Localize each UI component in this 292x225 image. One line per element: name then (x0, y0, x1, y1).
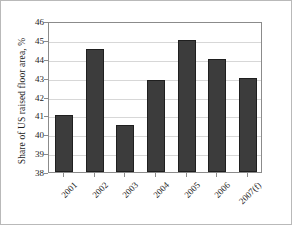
x-axis-tick-mark (155, 173, 156, 177)
bar (239, 78, 257, 172)
plot-area (48, 22, 262, 173)
x-axis-tick-mark (216, 173, 217, 177)
x-axis-tick-mark (63, 173, 64, 177)
bar (208, 59, 226, 172)
y-axis-title: Share of US raised floor area, % (15, 15, 29, 187)
bar (147, 80, 165, 172)
bar (55, 115, 73, 172)
x-axis-tick-mark (94, 173, 95, 177)
bar (116, 125, 134, 172)
x-axis-tick-mark (186, 173, 187, 177)
bar (86, 49, 104, 172)
bar (178, 40, 196, 172)
gridline (49, 61, 261, 62)
bar-chart-figure: Share of US raised floor area, % 3839404… (0, 0, 292, 225)
x-axis-tick-mark (247, 173, 248, 177)
y-axis-tick-mark (44, 173, 48, 174)
gridline (49, 42, 261, 43)
x-axis-tick-mark (124, 173, 125, 177)
